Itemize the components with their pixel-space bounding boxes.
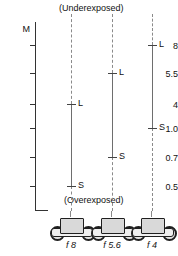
marker-label-s: S [119,152,125,161]
usable-range-bar [71,104,72,186]
lower-cap-tick [148,128,157,129]
axis-foot [35,210,48,211]
camera-icon: f 8 [49,215,93,239]
lower-cap-tick [108,157,117,158]
camera-body [60,218,84,234]
upper-cap-tick [148,45,157,46]
camera-icon: f 5.6 [90,215,134,239]
camera-stem [70,211,71,217]
axis-tick [30,186,35,187]
marker-label-s: S [159,123,165,132]
marker-label-l: L [78,99,83,108]
usable-range-bar [112,73,113,157]
aperture-label: f 5.6 [90,240,134,250]
dashed-upper-extension [71,14,72,104]
upper-cap-tick [108,73,117,74]
camera-stem [151,211,152,217]
upper-cap-tick [67,104,76,105]
marker-label-l: L [119,68,124,77]
overexposed-annotation: (Overexposed) [64,196,124,205]
axis-tick-label: 0.7 [150,153,178,163]
axis-tick [30,157,35,158]
axis-tick [30,73,35,74]
axis-tick-label: 5.5 [150,69,178,79]
marker-label-l: L [159,40,164,49]
dashed-lower-extension [152,128,153,211]
axis-title-m: M [0,24,30,34]
usable-range-bar [152,45,153,128]
dashed-lower-extension [71,186,72,211]
marker-label-s: S [78,181,84,190]
axis-tick-label: 0.5 [150,182,178,192]
camera-body [141,218,165,234]
lower-cap-tick [67,186,76,187]
dashed-upper-extension [112,14,113,73]
axis-tick [30,128,35,129]
dashed-upper-extension [152,14,153,45]
aperture-label: f 4 [130,240,174,250]
underexposed-annotation: (Underexposed) [59,4,124,13]
axis-tick [30,104,35,105]
camera-stem [111,211,112,217]
exposure-latitude-figure: (Underexposed) (Overexposed) M 85.541.00… [0,0,178,256]
aperture-label: f 8 [49,240,93,250]
camera-body [101,218,125,234]
dashed-lower-extension [112,157,113,211]
camera-icon: f 4 [130,215,174,239]
axis-tick [30,45,35,46]
axis-tick-label: 4 [150,100,178,110]
magnification-axis [35,22,36,211]
